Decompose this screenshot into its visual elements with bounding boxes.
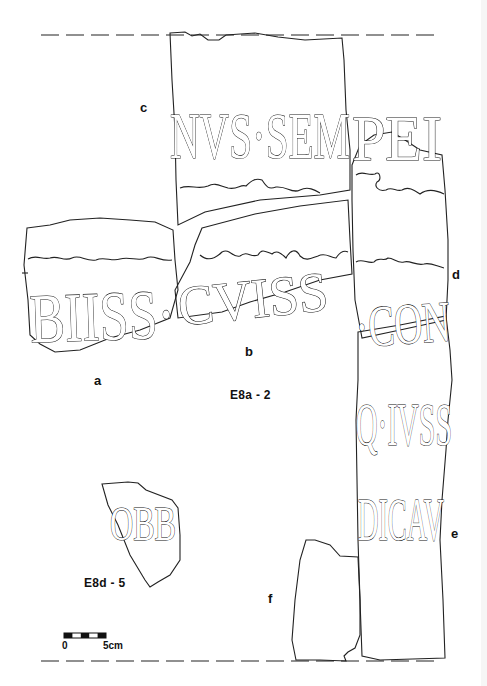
svg-text:DICAV: DICAV [358,485,444,553]
fragment-label-c: c [140,101,147,114]
fragment-label-b: b [245,345,253,358]
scale-bar [64,633,106,638]
scale-end-label: 5cm [103,641,123,651]
inscription-drawing: NVS·SEM PEI BIISS· CVISS ·CON Q·IVSS DIC… [0,0,487,686]
fragment-label-f: f [268,592,272,605]
fragment-label-a: a [94,374,101,387]
inscription-e8d5: OBB [110,497,176,550]
page-edge [481,0,487,686]
catalog-label-e8d-5: E8d - 5 [84,577,125,589]
svg-text:OBB: OBB [110,497,176,550]
inscription-b: CVISS [175,260,331,337]
svg-text:PEI: PEI [352,103,442,174]
inscription-a: BIISS· [29,275,177,357]
inscription-e: ·CON Q·IVSS DICAV [353,289,452,553]
svg-text:CVISS: CVISS [175,260,331,337]
svg-text:Q·IVSS: Q·IVSS [356,390,452,458]
svg-text:NVS·SEM: NVS·SEM [170,99,350,172]
inscription-d: PEI [352,103,442,174]
fragment-label-d: d [452,268,460,281]
inscription-c: NVS·SEM [170,99,350,172]
svg-text:·CON: ·CON [353,289,452,360]
catalog-label-e8a-2: E8a - 2 [230,389,271,401]
svg-text:BIISS·: BIISS· [29,275,177,357]
scale-start-label: 0 [62,641,68,651]
fragment-label-e: e [451,527,458,540]
fragment-f-outline [292,540,360,661]
drawing-canvas: NVS·SEM PEI BIISS· CVISS ·CON Q·IVSS DIC… [0,0,487,686]
